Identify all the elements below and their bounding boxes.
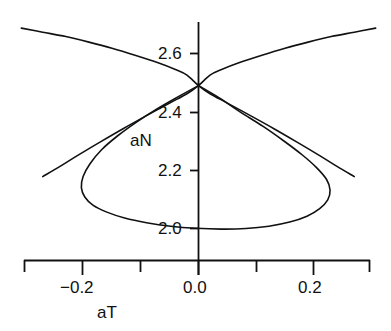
x-axis-ticks bbox=[24, 260, 370, 275]
y-tick-label-2-6: 2.6 bbox=[158, 44, 182, 64]
y-tick-label-2-0: 2.0 bbox=[158, 219, 182, 239]
x-tick-label-0-2: 0.2 bbox=[298, 278, 322, 298]
chart-figure: 2.6 2.4 2.2 2.0 −0.2 0.0 0.2 aT aN bbox=[0, 0, 391, 331]
curve-closed-loop bbox=[81, 84, 330, 229]
x-tick-label-minus-0-2: −0.2 bbox=[60, 278, 94, 298]
curve-upper-branch-ascending bbox=[43, 28, 376, 176]
y-tick-label-2-2: 2.2 bbox=[158, 161, 182, 181]
curve-upper-branch-descending bbox=[21, 28, 354, 176]
x-axis-title: aT bbox=[97, 303, 117, 323]
y-tick-label-2-4: 2.4 bbox=[158, 103, 182, 123]
x-tick-label-0-0: 0.0 bbox=[183, 278, 207, 298]
curve-annotation-an: aN bbox=[130, 131, 152, 151]
